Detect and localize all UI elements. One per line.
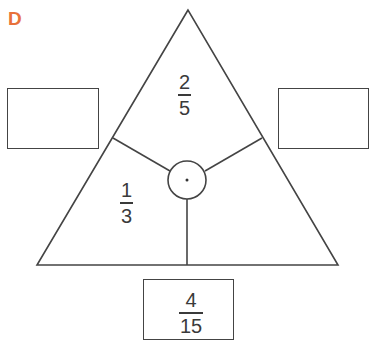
fraction-bar (178, 94, 191, 96)
numerator: 1 (120, 180, 133, 200)
right-spoke (205, 138, 262, 171)
multiply-dot-icon (186, 179, 189, 182)
answer-box-right[interactable] (278, 88, 369, 149)
denominator: 3 (120, 206, 133, 226)
denominator: 5 (178, 98, 191, 118)
numerator: 2 (178, 72, 191, 92)
fraction-top: 2 5 (178, 72, 191, 118)
numerator: 4 (185, 290, 198, 310)
fraction-left: 1 3 (120, 180, 133, 226)
fraction-bar (120, 202, 133, 204)
denominator: 15 (179, 316, 203, 336)
fraction-bottom: 4 15 (179, 290, 203, 336)
left-spoke (113, 138, 170, 171)
answer-box-left[interactable] (7, 88, 99, 149)
answer-box-bottom: 4 15 (143, 279, 234, 340)
fraction-bar (179, 312, 203, 314)
